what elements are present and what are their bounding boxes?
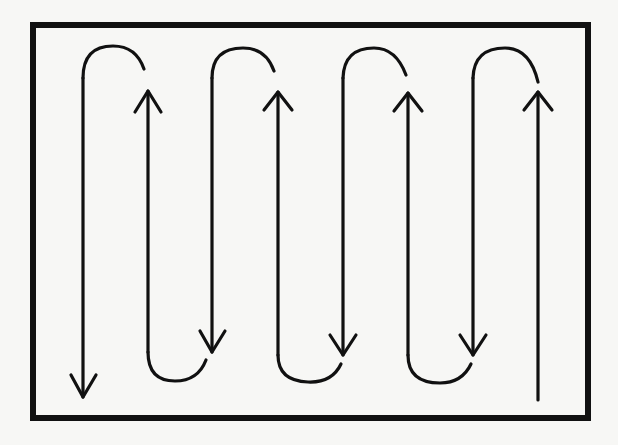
top-turn-4 (473, 48, 538, 82)
diagram-frame (33, 25, 588, 418)
bottom-turn-2 (278, 355, 341, 382)
segment-6-down (200, 78, 225, 352)
segment-1-up (524, 92, 552, 400)
serpentine-diagram (0, 0, 618, 445)
segment-4-down (330, 78, 356, 355)
top-turn-2 (212, 48, 274, 78)
top-turn-1 (83, 46, 144, 78)
top-turn-3 (343, 48, 406, 78)
segment-8-down (71, 78, 96, 397)
segment-5-up (264, 92, 292, 355)
bottom-turn-3 (408, 355, 471, 383)
segment-2-down (460, 78, 486, 355)
segment-3-up (394, 93, 422, 355)
segment-7-up (135, 91, 161, 352)
bottom-turn-1 (148, 352, 206, 381)
